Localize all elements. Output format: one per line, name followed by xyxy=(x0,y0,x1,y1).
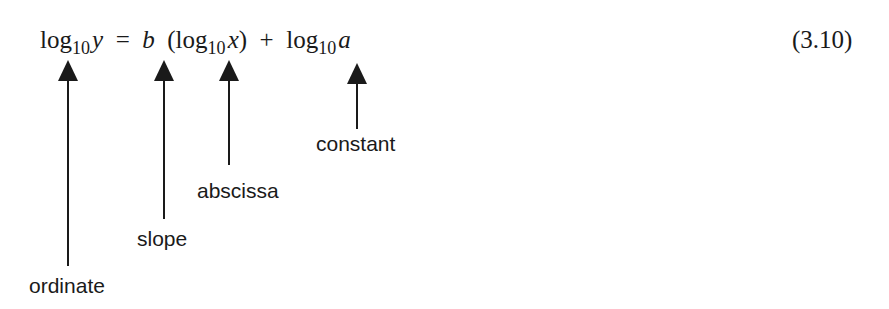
label-constant: constant xyxy=(316,132,395,156)
slope-arrow-icon xyxy=(154,60,174,219)
arrows xyxy=(0,0,889,309)
label-ordinate: ordinate xyxy=(29,274,105,298)
abscissa-arrow-icon xyxy=(219,60,239,165)
constant-arrow-icon xyxy=(347,63,367,129)
label-slope: slope xyxy=(137,227,187,251)
label-abscissa: abscissa xyxy=(197,179,279,203)
ordinate-arrow-icon xyxy=(58,60,78,266)
